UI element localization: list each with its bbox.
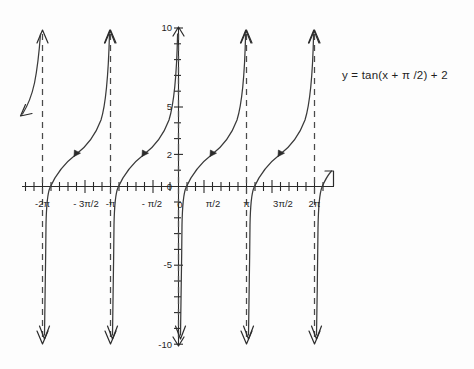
y-tick-label-2: 2 bbox=[167, 149, 172, 160]
curve-branch-neg2pi-negpi bbox=[40, 30, 116, 339]
tangent-graph-figure: -2π - 3π/2 -π - π/2 0 π/2 π 3π/2 2π 10 5… bbox=[0, 0, 474, 369]
y-tick-label-neg-5: -5 bbox=[164, 259, 172, 270]
plot-svg: -2π - 3π/2 -π - π/2 0 π/2 π 3π/2 2π 10 5… bbox=[0, 0, 474, 369]
curve-branch-zero-pi bbox=[176, 30, 252, 339]
curve-branch-pi-2pi bbox=[244, 30, 320, 339]
x-tick-label-zero: 0 bbox=[177, 199, 182, 210]
y-tick-label-neg-10: -10 bbox=[158, 339, 172, 350]
curve-group bbox=[21, 30, 332, 339]
y-tick-label-0: 0 bbox=[167, 181, 172, 192]
curve-branch-partial-left bbox=[21, 34, 41, 116]
x-tick-label-3pi-2: 3π/2 bbox=[273, 198, 293, 209]
x-tick-label-2pi: 2π bbox=[309, 198, 321, 209]
y-tick-label-5: 5 bbox=[167, 101, 172, 112]
equation-annotation: y = tan(x + π /2) + 2 bbox=[342, 69, 448, 81]
x-tick-labels: -2π - 3π/2 -π - π/2 0 π/2 π 3π/2 2π bbox=[35, 198, 321, 210]
x-tick-label-pi: π bbox=[243, 198, 250, 209]
x-tick-label-neg-pi: -π bbox=[106, 198, 116, 209]
x-tick-label-neg-2pi: -2π bbox=[35, 198, 50, 209]
x-tick-label-neg-3pi-2: - 3π/2 bbox=[73, 198, 99, 209]
x-tick-label-pi-2: π/2 bbox=[206, 198, 220, 209]
x-tick-label-neg-pi-2: - π/2 bbox=[142, 198, 162, 209]
y-tick-label-10: 10 bbox=[161, 22, 172, 33]
